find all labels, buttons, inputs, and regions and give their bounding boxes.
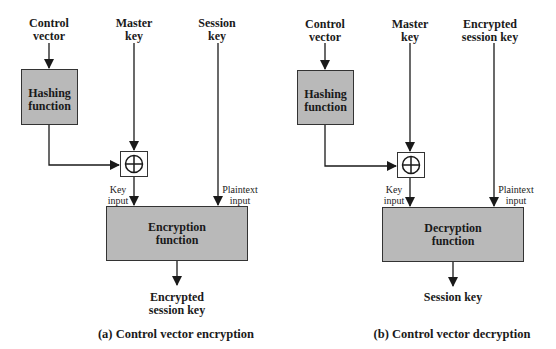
session-key-label: Session key xyxy=(198,17,235,43)
decryption-function-box: Decryption function xyxy=(382,207,524,262)
key-input-label-b: Key input xyxy=(384,184,405,206)
encrypted-session-key-output: Encrypted session key xyxy=(149,291,205,317)
control-vector-label: Control vector xyxy=(29,17,69,43)
caption-b: (b) Control vector decryption xyxy=(374,327,531,342)
decryption-function-label: Decryption function xyxy=(424,222,481,248)
hashing-function-label-b: Hashing function xyxy=(304,88,347,114)
session-key-output: Session key xyxy=(424,291,482,304)
xor-box xyxy=(120,151,148,177)
plaintext-input-label: Plaintext input xyxy=(222,184,258,206)
hash-to-xor-arrow-a xyxy=(49,124,119,165)
encrypted-session-key-label-b: Encrypted session key xyxy=(462,18,518,44)
hash-to-xor-arrow-b xyxy=(325,124,396,166)
control-vector-label-b: Control vector xyxy=(305,18,345,44)
encryption-function-box: Encryption function xyxy=(106,206,248,261)
plaintext-input-label-b: Plaintext input xyxy=(498,184,534,206)
caption-a: (a) Control vector encryption xyxy=(98,327,254,342)
xor-icon xyxy=(398,153,424,177)
hashing-function-label: Hashing function xyxy=(28,87,71,113)
master-key-label-b: Master key xyxy=(392,18,429,44)
master-key-label: Master key xyxy=(116,17,153,43)
hashing-function-box: Hashing function xyxy=(21,69,78,125)
xor-icon xyxy=(121,152,147,176)
xor-box-b xyxy=(397,152,425,178)
key-input-label: Key input xyxy=(108,184,129,206)
encryption-function-label: Encryption function xyxy=(148,221,206,247)
hashing-function-box-b: Hashing function xyxy=(297,70,354,125)
